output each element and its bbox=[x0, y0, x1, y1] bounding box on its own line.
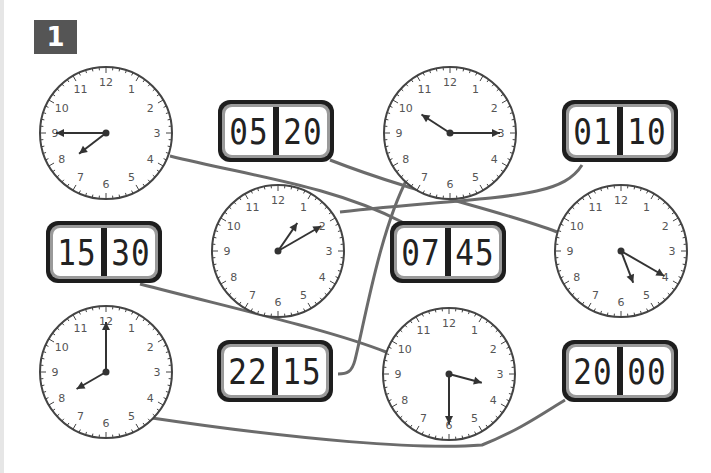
dial-number: 12 bbox=[442, 317, 456, 330]
digital-clock-0520: 05 20 bbox=[218, 100, 334, 162]
analog-clock: 121234567891011 bbox=[555, 185, 687, 317]
clock-tick bbox=[92, 68, 93, 71]
dial-number: 11 bbox=[417, 324, 431, 337]
dial-number: 7 bbox=[420, 412, 427, 425]
clock-tick bbox=[168, 385, 171, 386]
dial-number: 12 bbox=[614, 194, 628, 207]
clock-center-pin bbox=[447, 130, 454, 137]
digital-clock-2215: 22 15 bbox=[217, 340, 333, 402]
clock-tick bbox=[119, 434, 120, 437]
dial-number: 5 bbox=[300, 289, 307, 302]
digital-hours: 15 bbox=[53, 228, 101, 276]
dial-number: 8 bbox=[58, 392, 65, 405]
clock-tick bbox=[634, 313, 635, 316]
dial-number: 7 bbox=[249, 289, 256, 302]
dial-number: 2 bbox=[662, 220, 669, 233]
dial-number: 4 bbox=[319, 271, 326, 284]
clock-tick bbox=[119, 195, 120, 198]
dial-number: 9 bbox=[395, 368, 402, 381]
clock-tick bbox=[462, 436, 463, 439]
clock-tick bbox=[340, 264, 343, 265]
dial-number: 6 bbox=[618, 296, 625, 309]
dial-number: 4 bbox=[662, 271, 669, 284]
clock-tick bbox=[512, 119, 515, 120]
dial-number: 4 bbox=[147, 392, 154, 405]
digital-hours: 01 bbox=[569, 107, 617, 155]
dial-number: 12 bbox=[99, 76, 113, 89]
clock-tick bbox=[436, 195, 437, 198]
clock-tick bbox=[168, 358, 171, 359]
dial-number: 4 bbox=[491, 153, 498, 166]
clock-tick bbox=[607, 186, 608, 189]
dial-number: 2 bbox=[490, 343, 497, 356]
digital-clock-0745: 07 45 bbox=[390, 221, 506, 283]
dial-number: 11 bbox=[418, 83, 432, 96]
dial-number: 11 bbox=[74, 322, 88, 335]
dial-number: 10 bbox=[399, 102, 413, 115]
dial-number: 10 bbox=[55, 102, 69, 115]
dial-number: 1 bbox=[128, 322, 135, 335]
clock-tick bbox=[463, 68, 464, 71]
dial-number: 8 bbox=[401, 394, 408, 407]
dial-number: 1 bbox=[471, 324, 478, 337]
analog-clock: 121234567891011 bbox=[212, 185, 344, 317]
clock-center-pin bbox=[618, 248, 625, 255]
analog-clock: 121234567891011 bbox=[40, 306, 172, 438]
clock-center-pin bbox=[446, 371, 453, 378]
dial-number: 11 bbox=[246, 201, 260, 214]
clock-tick bbox=[264, 313, 265, 316]
clock-tick bbox=[607, 313, 608, 316]
clock-tick bbox=[683, 237, 686, 238]
dial-number: 8 bbox=[230, 271, 237, 284]
dial-number: 3 bbox=[154, 127, 161, 140]
dial-number: 5 bbox=[471, 412, 478, 425]
connector-lines bbox=[140, 156, 582, 446]
clock-tick bbox=[168, 119, 171, 120]
clock-tick bbox=[385, 119, 388, 120]
dial-number: 10 bbox=[570, 220, 584, 233]
digital-hours: 20 bbox=[569, 347, 617, 395]
dial-number: 1 bbox=[643, 201, 650, 214]
dial-number: 7 bbox=[77, 410, 84, 423]
dial-number: 4 bbox=[147, 153, 154, 166]
clock-tick bbox=[435, 436, 436, 439]
clock-tick bbox=[213, 264, 216, 265]
dial-number: 3 bbox=[669, 245, 676, 258]
digital-clock-1530: 15 30 bbox=[46, 221, 162, 283]
dial-number: 11 bbox=[74, 83, 88, 96]
dial-number: 7 bbox=[592, 289, 599, 302]
analog-clock: 121234567891011 bbox=[40, 67, 172, 199]
clock-tick bbox=[92, 195, 93, 198]
dial-number: 5 bbox=[128, 410, 135, 423]
dial-number: 12 bbox=[443, 76, 457, 89]
dial-number: 4 bbox=[490, 394, 497, 407]
dial-number: 1 bbox=[128, 83, 135, 96]
dial-number: 3 bbox=[326, 245, 333, 258]
clock-tick bbox=[119, 68, 120, 71]
dial-number: 7 bbox=[77, 171, 84, 184]
dial-number: 9 bbox=[567, 245, 574, 258]
digital-minutes: 30 bbox=[107, 228, 155, 276]
dial-number: 7 bbox=[421, 171, 428, 184]
clock-tick bbox=[634, 186, 635, 189]
digital-minutes: 15 bbox=[278, 347, 326, 395]
clock-tick bbox=[462, 309, 463, 312]
digital-clock-0110: 01 10 bbox=[562, 100, 678, 162]
clock-tick bbox=[119, 307, 120, 310]
dial-number: 8 bbox=[402, 153, 409, 166]
clock-tick bbox=[556, 264, 559, 265]
clock-tick bbox=[463, 195, 464, 198]
clock-tick bbox=[436, 68, 437, 71]
dial-number: 12 bbox=[271, 194, 285, 207]
dial-number: 5 bbox=[128, 171, 135, 184]
clock-tick bbox=[512, 146, 515, 147]
clock-tick bbox=[556, 237, 559, 238]
clock-tick bbox=[41, 358, 44, 359]
dial-number: 11 bbox=[589, 201, 603, 214]
dial-number: 5 bbox=[472, 171, 479, 184]
dial-number: 5 bbox=[643, 289, 650, 302]
dial-number: 6 bbox=[275, 296, 282, 309]
dial-number: 2 bbox=[491, 102, 498, 115]
clock-tick bbox=[385, 146, 388, 147]
clock-tick bbox=[291, 313, 292, 316]
